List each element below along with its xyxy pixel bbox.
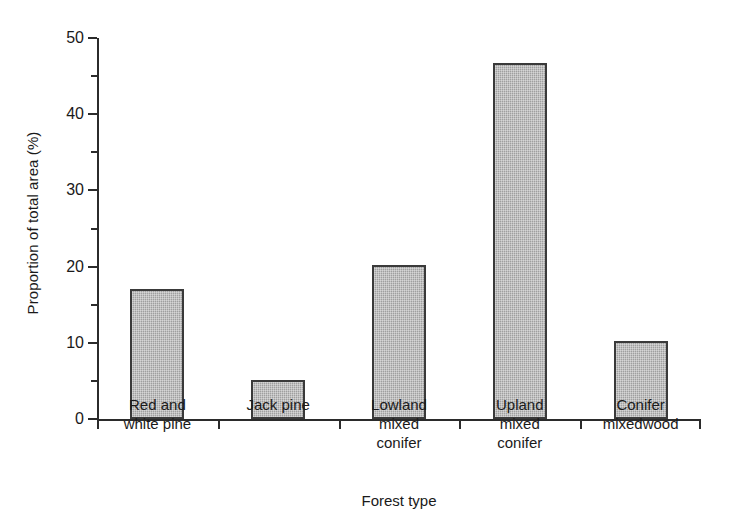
x-category-label-line: conifer (339, 433, 460, 452)
x-category-label-line: mixed (339, 414, 460, 433)
x-category-label: Red andwhite pine (97, 395, 218, 433)
y-tick-label: 0 (75, 410, 84, 428)
x-category-label: Lowlandmixedconifer (339, 395, 460, 452)
y-tick-label: 30 (66, 181, 84, 199)
y-tick-label: 20 (66, 258, 84, 276)
y-tick-major (88, 342, 97, 344)
x-axis-title: Forest type (97, 492, 701, 509)
x-category-label-line: Conifer (580, 395, 701, 414)
y-tick-major (88, 113, 97, 115)
y-tick-minor (91, 75, 97, 77)
y-tick-label: 40 (66, 105, 84, 123)
plot-area: 01020304050 (97, 38, 701, 419)
y-tick-label: 10 (66, 334, 84, 352)
y-tick-major (88, 37, 97, 39)
x-category-label-line: mixed (459, 414, 580, 433)
bar-chart-figure: Proportion of total area (%) 01020304050… (0, 0, 735, 528)
x-category-label-line: Jack pine (218, 395, 339, 414)
y-axis-title: Proportion of total area (%) (24, 13, 50, 433)
y-tick-major (88, 418, 97, 420)
x-category-label-line: mixedwood (580, 414, 701, 433)
y-tick-minor (91, 151, 97, 153)
x-category-label-line: conifer (459, 433, 580, 452)
x-category-label-line: Red and (97, 395, 218, 414)
x-category-label-line: white pine (97, 414, 218, 433)
y-tick-minor (91, 228, 97, 230)
x-category-label-line: Upland (459, 395, 580, 414)
y-tick-minor (91, 304, 97, 306)
x-category-label: Jack pine (218, 395, 339, 414)
y-tick-major (88, 189, 97, 191)
bar (493, 63, 547, 419)
y-tick-minor (91, 380, 97, 382)
x-category-label-line: Lowland (339, 395, 460, 414)
x-category-label: Uplandmixedconifer (459, 395, 580, 452)
y-axis-spine (97, 38, 99, 419)
y-tick-label: 50 (66, 29, 84, 47)
y-tick-major (88, 266, 97, 268)
x-tick (218, 419, 220, 429)
x-category-label: Conifermixedwood (580, 395, 701, 433)
